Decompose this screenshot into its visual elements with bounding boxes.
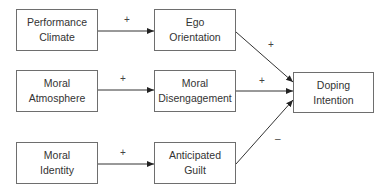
node-label-line: Performance bbox=[27, 15, 87, 30]
node-label-line: Guilt bbox=[184, 163, 206, 178]
path-diagram: Performance Climate Ego Orientation Mora… bbox=[0, 0, 389, 194]
edge-sign-atmosphere-disengagement: + bbox=[120, 74, 126, 84]
edge-sign-guilt-doping: – bbox=[275, 134, 281, 144]
node-label-line: Moral bbox=[44, 76, 70, 91]
node-anticipated-guilt: Anticipated Guilt bbox=[154, 142, 236, 184]
edge-sign-ego-doping: + bbox=[268, 40, 274, 50]
edge-sign-disengagement-doping: + bbox=[259, 76, 265, 86]
node-label-line: Ego bbox=[186, 15, 205, 30]
node-performance-climate: Performance Climate bbox=[16, 9, 98, 51]
node-label-line: Doping bbox=[317, 78, 350, 93]
node-label-line: Moral bbox=[182, 76, 208, 91]
node-label-line: Intention bbox=[313, 93, 353, 108]
node-moral-atmosphere: Moral Atmosphere bbox=[16, 70, 98, 112]
node-label-line: Atmosphere bbox=[29, 91, 86, 106]
node-label-line: Disengagement bbox=[158, 91, 232, 106]
node-label-line: Orientation bbox=[169, 30, 220, 45]
node-label-line: Climate bbox=[39, 30, 75, 45]
arrow-guilt-to-doping bbox=[236, 100, 293, 164]
node-label-line: Identity bbox=[40, 163, 74, 178]
node-doping-intention: Doping Intention bbox=[293, 72, 374, 113]
node-label-line: Anticipated bbox=[169, 148, 221, 163]
node-ego-orientation: Ego Orientation bbox=[154, 9, 236, 51]
node-moral-identity: Moral Identity bbox=[16, 142, 98, 184]
edge-sign-identity-guilt: + bbox=[120, 148, 126, 158]
edge-sign-performance-ego: + bbox=[124, 15, 130, 25]
node-moral-disengagement: Moral Disengagement bbox=[154, 70, 236, 112]
node-label-line: Moral bbox=[44, 148, 70, 163]
